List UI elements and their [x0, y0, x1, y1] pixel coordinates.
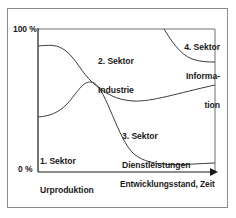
sector-1-label-line1: 1. Sektor	[40, 157, 94, 167]
sector-2-label: 2. Sektor Industrie	[98, 38, 134, 115]
sector-4-label-line3: tion	[178, 101, 220, 111]
x-axis-arrow-icon	[210, 168, 218, 176]
sector-1-label-line2: Urproduktion	[40, 186, 94, 196]
sector-3-label-line2: Dienstleistungen	[122, 161, 190, 171]
sector-4-label-line1: 4. Sektor	[178, 43, 220, 53]
x-axis-label: Entwicklungsstand, Zeit	[120, 180, 215, 189]
sector-2-label-line2: Industrie	[98, 86, 134, 96]
sector-2-label-line1: 2. Sektor	[98, 57, 134, 67]
sector-4-label: 4. Sektor Informa- tion	[178, 24, 220, 130]
sector-4-label-line2: Informa-	[178, 72, 220, 82]
chart-figure: 100 % 0 % 1. Sektor Urproduktion 2. Sekt…	[0, 0, 236, 218]
y-axis-tick-bottom: 0 %	[18, 165, 32, 175]
y-axis-tick-top: 100 %	[13, 25, 37, 35]
sector-3-label-line1: 3. Sektor	[122, 132, 190, 142]
sector-1-label: 1. Sektor Urproduktion	[40, 138, 94, 215]
